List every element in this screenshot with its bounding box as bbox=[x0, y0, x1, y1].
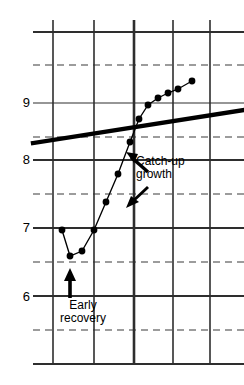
annotation-catch-up-growth: Catch-up growth bbox=[136, 155, 185, 181]
catchup-arrow-lower-icon bbox=[126, 187, 148, 208]
axis-label-7: 7 bbox=[8, 221, 30, 234]
axis-label-9: 9 bbox=[8, 96, 30, 109]
data-point bbox=[145, 102, 152, 109]
data-point bbox=[136, 116, 143, 123]
data-point bbox=[115, 171, 122, 178]
data-point bbox=[165, 90, 172, 97]
data-point bbox=[79, 248, 86, 255]
data-point bbox=[175, 86, 182, 93]
data-point bbox=[103, 199, 110, 206]
data-point bbox=[127, 139, 134, 146]
axis-label-8: 8 bbox=[8, 153, 30, 166]
early-recovery-arrow-icon bbox=[64, 268, 76, 298]
chart-figure: 9 8 7 6 Catch-up growth Early recovery bbox=[0, 0, 244, 385]
data-point bbox=[189, 78, 196, 85]
data-point bbox=[59, 227, 66, 234]
chart-canvas bbox=[0, 0, 244, 385]
trend-line bbox=[33, 110, 244, 143]
annotation-early-recovery: Early recovery bbox=[52, 299, 114, 325]
data-point bbox=[155, 95, 162, 102]
data-point bbox=[67, 253, 74, 260]
data-point bbox=[91, 227, 98, 234]
axis-label-6: 6 bbox=[8, 290, 30, 303]
